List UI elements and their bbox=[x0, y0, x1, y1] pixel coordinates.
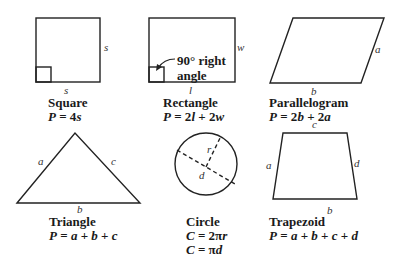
annotation-line-1: 90° right bbox=[177, 53, 226, 68]
parallelogram-shape bbox=[270, 18, 384, 83]
triangle-shape bbox=[17, 133, 140, 203]
trapezoid-side-label-left: a bbox=[266, 160, 272, 171]
parallelogram-side-label-right: a bbox=[375, 44, 381, 55]
trapezoid-formula: P = a + b + c + dP = a + b + c + d bbox=[269, 229, 358, 242]
circle-formula-diameter: C = πdC = πd bbox=[186, 243, 222, 256]
circle-formula-radius: C = 2πrC = 2πr bbox=[186, 229, 227, 242]
triangle-formula: P = a + b + cP = a + b + c bbox=[49, 229, 118, 242]
square-name: Square bbox=[48, 96, 88, 109]
circle-diameter-label: d bbox=[199, 170, 205, 181]
rectangle-name: Rectangle bbox=[163, 96, 218, 109]
parallelogram-name: Parallelogram bbox=[269, 96, 348, 109]
square-shape bbox=[36, 18, 100, 82]
trapezoid-shape bbox=[273, 133, 357, 199]
trapezoid-name: Trapezoid bbox=[269, 215, 325, 228]
square-side-label-right: s bbox=[104, 42, 108, 53]
triangle-side-label-left: a bbox=[38, 156, 44, 167]
rectangle-side-label-right: w bbox=[237, 42, 244, 53]
circle-radius-label: r bbox=[207, 144, 211, 155]
trapezoid-side-label-right: d bbox=[354, 158, 360, 169]
trapezoid-side-label-bottom: b bbox=[327, 205, 333, 216]
circle-shape bbox=[175, 133, 237, 195]
right-angle-annotation: 90° right angle bbox=[177, 53, 226, 83]
circle-name: Circle bbox=[186, 215, 220, 228]
square-formula: P = 4sP = 4s bbox=[48, 110, 81, 123]
square-right-angle-marker bbox=[36, 67, 51, 82]
triangle-side-label-right: c bbox=[111, 156, 116, 167]
triangle-name: Triangle bbox=[49, 215, 96, 228]
trapezoid-side-label-top: c bbox=[312, 119, 317, 130]
arrowhead-icon bbox=[156, 64, 162, 71]
annotation-line-2: angle bbox=[177, 68, 226, 83]
rectangle-formula: P = 2l + 2wP = 2l + 2w bbox=[163, 110, 224, 123]
parallelogram-formula: P = 2b + 2aP = 2b + 2a bbox=[269, 110, 331, 123]
